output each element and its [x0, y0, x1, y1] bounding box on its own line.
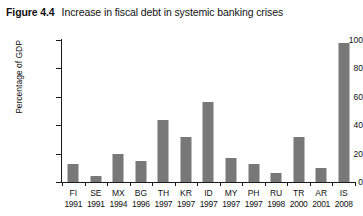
- bar-fi: [68, 164, 79, 182]
- bar-id: [203, 102, 214, 182]
- bar-slot: [265, 40, 288, 182]
- bar-slot: [107, 40, 130, 182]
- crisis-year: 2008: [329, 199, 359, 210]
- x-tick-mark: [197, 183, 198, 186]
- x-tick-mark: [265, 183, 266, 186]
- y-axis-label: Percentage of GDP: [14, 22, 24, 132]
- bar-slot: [130, 40, 153, 182]
- x-tick-mark: [332, 183, 333, 186]
- figure-number: Figure 4.4: [6, 6, 55, 18]
- figure-title: Increase in fiscal debt in systemic bank…: [62, 6, 283, 18]
- x-tick-mark: [220, 183, 221, 186]
- x-tick-mark: [287, 183, 288, 186]
- bar-slot: [310, 40, 333, 182]
- bar-ru: [271, 173, 282, 182]
- x-tick-mark: [355, 183, 356, 186]
- x-axis-labels: FI1991SE1991MX1994BG1996TH1997KR1997ID19…: [62, 188, 355, 214]
- bar-ar: [316, 168, 327, 182]
- bar-slot: [85, 40, 108, 182]
- bar-slot: [197, 40, 220, 182]
- x-tick-mark: [310, 183, 311, 186]
- x-axis-ticks: [62, 183, 355, 187]
- y-tick-mark: [56, 182, 61, 183]
- bar-slot: [287, 40, 310, 182]
- bar-slot: [62, 40, 85, 182]
- x-tick-mark: [130, 183, 131, 186]
- bar-my: [226, 158, 237, 182]
- bar-kr: [180, 137, 191, 182]
- x-tick-mark: [175, 183, 176, 186]
- country-code: IS: [329, 188, 359, 199]
- y-tick-mark: [56, 125, 61, 126]
- x-tick-mark: [62, 183, 63, 186]
- x-tick-mark: [152, 183, 153, 186]
- bar-th: [158, 120, 169, 182]
- bar-slot: [332, 40, 355, 182]
- bar-is: [338, 43, 349, 182]
- bar-mx: [113, 154, 124, 182]
- bar-slot: [175, 40, 198, 182]
- x-tick-mark: [85, 183, 86, 186]
- x-tick-mark: [242, 183, 243, 186]
- x-tick-mark: [107, 183, 108, 186]
- bar-slot: [220, 40, 243, 182]
- bar-slot: [242, 40, 265, 182]
- figure-container: Figure 4.4 Increase in fiscal debt in sy…: [0, 0, 363, 216]
- x-tick-label-is: IS2008: [329, 188, 359, 210]
- bar-slot: [152, 40, 175, 182]
- bar-bg: [135, 161, 146, 182]
- bar-series: [62, 40, 355, 182]
- bar-tr: [293, 137, 304, 182]
- bar-ph: [248, 164, 259, 182]
- figure-caption: Figure 4.4 Increase in fiscal debt in sy…: [6, 6, 358, 22]
- y-tick-mark: [56, 154, 61, 155]
- y-tick-mark: [56, 40, 61, 41]
- y-tick-mark: [56, 68, 61, 69]
- y-tick-mark: [56, 97, 61, 98]
- bar-se: [90, 176, 101, 182]
